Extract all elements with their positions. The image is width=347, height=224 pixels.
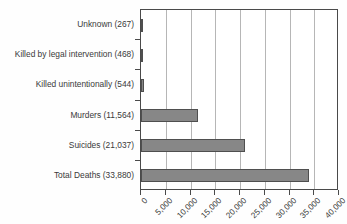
y-axis-category-labels: Unknown (267)Killed by legal interventio… bbox=[0, 9, 136, 190]
x-axis-tick bbox=[289, 190, 290, 195]
y-axis-category-label: Killed by legal intervention (468) bbox=[15, 49, 134, 59]
y-axis-category-label: Total Deaths (33,880) bbox=[54, 170, 134, 180]
x-axis-tick bbox=[239, 190, 240, 195]
x-axis-tick-label: 30,000 bbox=[274, 196, 298, 220]
x-axis-tick bbox=[140, 190, 141, 195]
x-axis-tick bbox=[214, 190, 215, 195]
bar bbox=[141, 19, 143, 32]
y-axis-category-label: Suicides (21,037) bbox=[69, 140, 134, 150]
x-axis-tick-label: 40,000 bbox=[323, 196, 347, 220]
y-axis-category-label: Unknown (267) bbox=[77, 19, 134, 29]
bar bbox=[141, 109, 198, 122]
gridline bbox=[265, 10, 266, 189]
x-axis-tick-label: 15,000 bbox=[200, 196, 224, 220]
x-axis-tick-label: 5,000 bbox=[153, 196, 174, 217]
bar bbox=[141, 139, 245, 152]
gridline bbox=[290, 10, 291, 189]
x-axis-tick-label: 0 bbox=[140, 196, 150, 206]
x-axis-tick-label: 35,000 bbox=[299, 196, 323, 220]
gridline bbox=[166, 10, 167, 189]
gridline bbox=[240, 10, 241, 189]
x-axis-tick bbox=[264, 190, 265, 195]
x-axis-tick bbox=[338, 190, 339, 195]
x-axis-tick-label: 10,000 bbox=[175, 196, 199, 220]
x-axis-tick-label: 20,000 bbox=[224, 196, 248, 220]
bar bbox=[141, 79, 144, 92]
y-axis-category-label: Murders (11,564) bbox=[70, 110, 134, 120]
y-axis-category-label: Killed unintentionally (544) bbox=[36, 79, 134, 89]
x-axis-tick bbox=[165, 190, 166, 195]
gridline bbox=[215, 10, 216, 189]
x-axis-tick bbox=[190, 190, 191, 195]
gridline bbox=[191, 10, 192, 189]
x-axis-tick-label: 25,000 bbox=[249, 196, 273, 220]
x-axis-tick bbox=[313, 190, 314, 195]
gridline bbox=[314, 10, 315, 189]
bar bbox=[141, 169, 309, 182]
bar bbox=[141, 49, 143, 62]
plot-area bbox=[140, 9, 338, 190]
